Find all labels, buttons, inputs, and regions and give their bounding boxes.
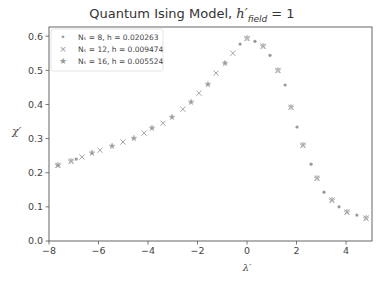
y-tick-label: 0.2 xyxy=(28,167,43,178)
x-tick-label: 2 xyxy=(293,245,299,256)
legend-entry-ns12: ×Nₛ = 12, h = 0.009474 xyxy=(54,43,163,55)
data-point-dot xyxy=(295,125,298,128)
chart-figure: Quantum Ising Model, h′field = 1 −8−6−4−… xyxy=(0,0,384,281)
y-tick-label: 0.1 xyxy=(28,201,43,212)
data-point-x xyxy=(79,154,84,159)
legend: •Nₛ = 8, h = 0.020263 ×Nₛ = 12, h = 0.00… xyxy=(54,31,163,67)
data-point-dot xyxy=(238,42,241,45)
data-point-dot xyxy=(310,163,313,166)
x-axis-label: λ′ xyxy=(200,262,294,273)
y-tick-label: 0.4 xyxy=(28,99,43,110)
legend-entry-ns8: •Nₛ = 8, h = 0.020263 xyxy=(54,31,163,43)
star-marker-icon: ★ xyxy=(54,56,72,66)
x-marker-icon: × xyxy=(54,44,72,54)
x-tick-label: −4 xyxy=(141,245,155,256)
data-point-x xyxy=(196,91,201,96)
data-point-dot xyxy=(337,205,340,208)
data-point-dot xyxy=(75,157,78,160)
data-point-dot xyxy=(268,54,271,57)
legend-label: Nₛ = 12, h = 0.009474 xyxy=(78,45,163,54)
legend-label: Nₛ = 8, h = 0.020263 xyxy=(78,33,159,42)
y-tick-label: 0.5 xyxy=(28,65,43,76)
y-tick-label: 0.6 xyxy=(28,31,43,42)
x-tick-label: 0 xyxy=(244,245,250,256)
data-point-dot xyxy=(253,40,256,43)
x-tick-label: 4 xyxy=(343,245,349,256)
y-tick-label: 0.0 xyxy=(28,235,43,246)
x-tick-label: −2 xyxy=(190,245,204,256)
x-tick-label: −8 xyxy=(42,245,56,256)
data-point-dot xyxy=(355,213,358,216)
x-tick-label: −6 xyxy=(91,245,105,256)
data-point-x xyxy=(213,70,218,75)
data-point-x xyxy=(230,51,235,56)
y-axis-label: χ′ xyxy=(12,125,21,138)
data-point-x xyxy=(180,107,185,112)
legend-entry-ns16: ★Nₛ = 16, h = 0.005524 xyxy=(54,55,163,67)
y-tick-label: 0.3 xyxy=(28,133,43,144)
data-point-x xyxy=(120,139,125,144)
data-point-x xyxy=(97,148,102,153)
dot-marker-icon: • xyxy=(54,32,72,42)
legend-label: Nₛ = 16, h = 0.005524 xyxy=(78,57,163,66)
data-point-x xyxy=(161,121,166,126)
data-point-dot xyxy=(284,83,287,86)
data-point-dot xyxy=(322,191,325,194)
data-point-x xyxy=(141,131,146,136)
